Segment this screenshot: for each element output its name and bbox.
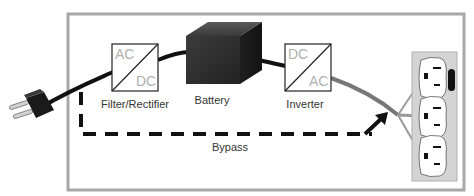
inverter-output-label: AC — [309, 74, 328, 88]
outlet-1-icon — [419, 57, 446, 98]
outlet-2-icon — [419, 96, 446, 137]
ups-diagram: AC DC DC AC Filter/Rectifier Battery Inv… — [0, 0, 474, 196]
outlet-3-icon — [419, 135, 446, 176]
inverter-input-label: DC — [288, 47, 308, 61]
power-plug-icon — [9, 89, 54, 119]
filter-output-label: DC — [136, 74, 156, 88]
filter-rectifier-label: Filter/Rectifier — [101, 98, 169, 110]
diagram-canvas — [0, 0, 474, 196]
bypass-label: Bypass — [212, 141, 248, 153]
filter-input-label: AC — [115, 47, 134, 61]
battery-icon — [186, 22, 262, 84]
inverter-label: Inverter — [286, 98, 323, 110]
battery-label: Battery — [195, 94, 230, 106]
outlet-strip-icon — [412, 52, 457, 181]
